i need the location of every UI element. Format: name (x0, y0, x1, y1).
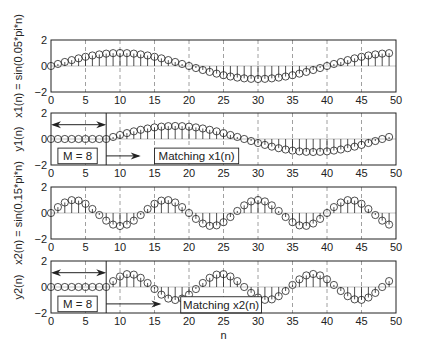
x-tick-label: 10 (114, 315, 126, 327)
y-tick-label: 0 (41, 281, 47, 293)
x-tick-label: 50 (390, 167, 402, 179)
x-tick-label: 10 (114, 167, 126, 179)
x-tick-label: 35 (286, 241, 298, 253)
figure: 05101520253035404550−202x1(n) = sin(0.05… (0, 0, 421, 356)
y-tick-label: −2 (34, 307, 47, 319)
y-axis-label: x2(n) = sin(0.15*pi*n) (12, 161, 24, 265)
x-tick-label: 45 (355, 241, 367, 253)
x-tick-label: 20 (183, 315, 195, 327)
y-axis-label: y2(n) (12, 274, 24, 299)
x-tick-label: 0 (48, 167, 54, 179)
x-tick-label: 50 (390, 94, 402, 106)
subplot-3: 05101520253035404550−202x2(n) = sin(0.15… (12, 161, 402, 265)
stem-marker (386, 133, 393, 140)
x-tick-label: 45 (355, 167, 367, 179)
x-tick-label: 25 (217, 94, 229, 106)
x-tick-label: 20 (183, 241, 195, 253)
x-tick-label: 50 (390, 241, 402, 253)
x-axis-label: n (220, 329, 226, 341)
annotation-text: M = 8 (63, 298, 92, 310)
x-tick-label: 20 (183, 94, 195, 106)
x-tick-label: 35 (286, 94, 298, 106)
y-tick-label: 2 (41, 34, 47, 46)
x-tick-label: 5 (82, 315, 88, 327)
x-tick-label: 20 (183, 167, 195, 179)
x-tick-label: 30 (252, 94, 264, 106)
subplot-4: M = 8Matching x2(n)05101520253035404550−… (12, 255, 402, 341)
annotation-text: M = 8 (63, 150, 92, 162)
y-tick-label: 0 (41, 60, 47, 72)
x-tick-label: 30 (252, 241, 264, 253)
stem-marker (234, 133, 241, 140)
y-tick-label: 0 (41, 133, 47, 145)
y-axis-label: y1(n) (12, 126, 24, 151)
y-tick-label: −2 (34, 233, 47, 245)
stem-marker (275, 207, 282, 214)
y-tick-label: 0 (41, 207, 47, 219)
x-tick-label: 15 (148, 94, 160, 106)
x-tick-label: 0 (48, 241, 54, 253)
x-tick-label: 25 (217, 241, 229, 253)
x-tick-label: 5 (82, 241, 88, 253)
x-tick-label: 0 (48, 315, 54, 327)
annotation-text: Matching x2(n) (183, 299, 259, 311)
x-tick-label: 45 (355, 94, 367, 106)
x-tick-label: 25 (217, 315, 229, 327)
x-tick-label: 25 (217, 167, 229, 179)
x-tick-label: 0 (48, 94, 54, 106)
x-tick-label: 15 (148, 167, 160, 179)
x-tick-label: 50 (390, 315, 402, 327)
y-tick-label: 2 (41, 181, 47, 193)
x-tick-label: 40 (321, 315, 333, 327)
stem-marker (234, 207, 241, 214)
x-tick-label: 40 (321, 94, 333, 106)
y-axis-label: x1(n) = sin(0.05*pi*n) (12, 14, 24, 118)
x-tick-label: 45 (355, 315, 367, 327)
x-tick-label: 30 (252, 167, 264, 179)
stem-marker (110, 133, 117, 140)
subplot-2: M = 8Matching x1(n)05101520253035404550−… (12, 107, 402, 179)
y-tick-label: 2 (41, 107, 47, 119)
annotation-text: Matching x1(n) (159, 150, 235, 162)
y-tick-label: 2 (41, 255, 47, 267)
x-tick-label: 15 (148, 315, 160, 327)
subplot-1: 05101520253035404550−202x1(n) = sin(0.05… (12, 14, 402, 118)
x-tick-label: 40 (321, 241, 333, 253)
x-tick-label: 35 (286, 315, 298, 327)
x-tick-label: 40 (321, 167, 333, 179)
x-tick-label: 35 (286, 167, 298, 179)
y-tick-label: −2 (34, 86, 47, 98)
x-tick-label: 10 (114, 241, 126, 253)
x-tick-label: 5 (82, 167, 88, 179)
x-tick-label: 15 (148, 241, 160, 253)
x-tick-label: 30 (252, 315, 264, 327)
x-tick-label: 5 (82, 94, 88, 106)
y-tick-label: −2 (34, 159, 47, 171)
x-tick-label: 10 (114, 94, 126, 106)
